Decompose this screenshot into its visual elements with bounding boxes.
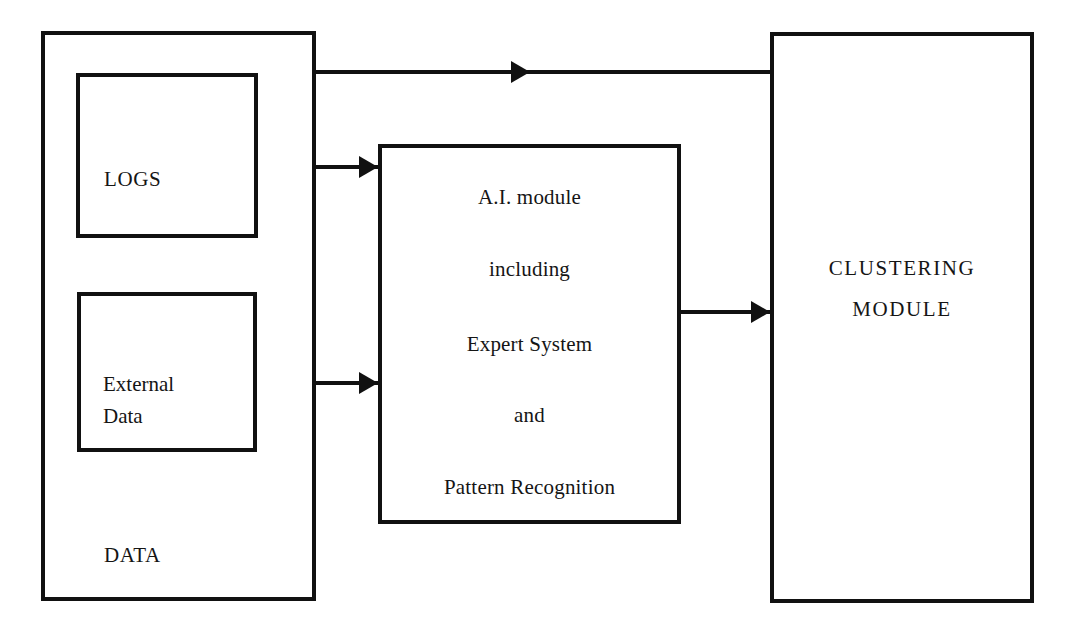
arrow-ai-to-clustering-head xyxy=(751,301,770,323)
ai-module-line-2: including xyxy=(378,257,681,282)
clustering-module-label-line2: MODULE xyxy=(770,297,1034,322)
external-data-label-line1: External xyxy=(103,368,174,401)
arrow-external-data-to-ai-head xyxy=(359,372,378,394)
arrow-data-to-clustering-line xyxy=(315,70,772,74)
ai-module-line-1: A.I. module xyxy=(378,185,681,210)
clustering-module-label-line1: CLUSTERING xyxy=(770,256,1034,281)
ai-module-line-4: and xyxy=(378,403,681,428)
arrow-data-to-clustering-head xyxy=(511,61,530,83)
diagram-canvas: LOGS External Data DATA A.I. module incl… xyxy=(0,0,1070,636)
logs-box xyxy=(76,73,258,238)
external-data-label-line2: Data xyxy=(103,400,143,433)
ai-module-line-3: Expert System xyxy=(378,332,681,357)
logs-label: LOGS xyxy=(104,168,161,190)
arrow-logs-to-ai-head xyxy=(359,156,378,178)
ai-module-line-5: Pattern Recognition xyxy=(378,475,681,500)
data-label: DATA xyxy=(104,544,161,566)
